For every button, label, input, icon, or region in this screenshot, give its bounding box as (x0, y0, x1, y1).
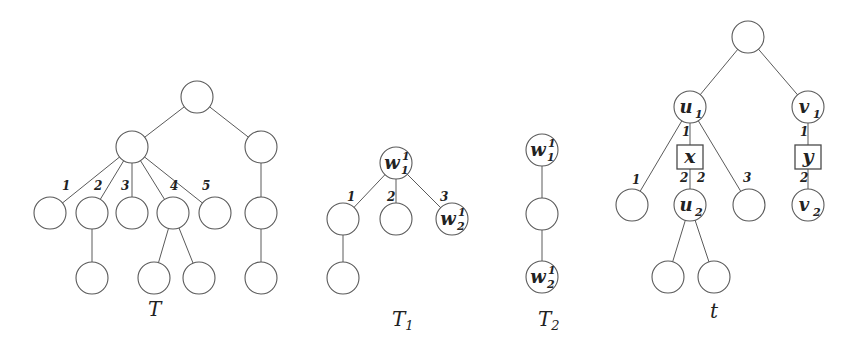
tree-node (183, 262, 215, 294)
edge-label: 2 (799, 171, 808, 185)
box-node-x: x (677, 145, 703, 169)
edge-label: 1 (800, 125, 808, 139)
tree-node (652, 261, 684, 293)
edge-label: 3 (743, 171, 751, 185)
tree-t: u1v1xyu2v21122312t (616, 21, 824, 323)
tree-node-w1: w11 (526, 134, 558, 166)
edge-label: 4 (170, 179, 178, 193)
edge-label: 5 (202, 179, 210, 193)
tree-title-T2: T2 (538, 307, 560, 333)
edge-label: 2 (93, 179, 102, 193)
tree-node (138, 262, 170, 294)
tree-node (380, 203, 412, 235)
node-label-subscript: 2 (546, 278, 555, 291)
tree-node (327, 262, 359, 294)
tree-node (698, 261, 730, 293)
tree-node-v1: v1 (792, 91, 824, 123)
tree-node-u1: u1 (674, 91, 706, 123)
tree-node (526, 198, 558, 230)
tree-node (245, 131, 277, 163)
tree-node-w2: w12 (436, 203, 468, 235)
tree-node (157, 197, 189, 229)
tree-node (116, 197, 148, 229)
node-label-superscript: 1 (548, 137, 556, 150)
tree-node (34, 197, 66, 229)
node-label-subscript: 2 (812, 206, 821, 219)
node-label-superscript: 1 (548, 264, 556, 277)
node-label: w (530, 139, 547, 160)
node-label-subscript: 1 (813, 108, 821, 121)
tree-T1: w11w12123T1 (327, 147, 468, 333)
node-label: x (683, 145, 696, 167)
node-label: v (799, 96, 810, 117)
tree-node-w1: w11 (380, 147, 412, 179)
node-label-superscript: 1 (458, 206, 466, 219)
edge-label: 1 (682, 125, 690, 139)
tree-node (733, 189, 765, 221)
tree-node (245, 197, 277, 229)
edge-label: 1 (62, 179, 70, 193)
edge-label: 3 (121, 179, 129, 193)
node-label: w (440, 208, 457, 229)
tree-node (245, 262, 277, 294)
tree-node (76, 197, 108, 229)
tree-title-T: T (148, 297, 163, 321)
node-label: u (679, 194, 692, 215)
node-label-subscript: 1 (401, 164, 409, 177)
tree-node (181, 81, 213, 113)
tree-node-v2: v2 (792, 189, 824, 221)
edge-label: 2 (679, 171, 688, 185)
node-label-subscript: 1 (547, 151, 555, 164)
node-label: v (799, 194, 810, 215)
tree-title-T1: T1 (392, 307, 414, 333)
edge-label: 1 (347, 190, 355, 204)
node-label-subscript: 2 (694, 206, 703, 219)
tree-T: 12345T (34, 81, 277, 321)
edge-label: 2 (386, 190, 395, 204)
tree-diagram: 12345Tw11w12123T1w11w12T2u1v1xyu2v211223… (0, 0, 858, 345)
node-label-superscript: 1 (402, 150, 410, 163)
tree-T2: w11w12T2 (526, 134, 560, 333)
node-label-subscript: 2 (456, 220, 465, 233)
tree-node (199, 197, 231, 229)
edge-label: 2 (696, 171, 705, 185)
tree-node (616, 189, 648, 221)
tree-node (327, 203, 359, 235)
tree-node-w2: w12 (526, 261, 558, 293)
tree-node (732, 21, 764, 53)
tree-node (76, 262, 108, 294)
tree-title-t: t (710, 299, 719, 323)
node-label: u (679, 96, 692, 117)
node-label: y (801, 145, 815, 167)
tree-node-u2: u2 (674, 189, 706, 221)
node-label: w (530, 266, 547, 287)
edge-label: 1 (632, 173, 640, 187)
node-label: w (384, 152, 401, 173)
tree-node (116, 131, 148, 163)
edge-label: 3 (440, 190, 448, 204)
box-node-y: y (795, 145, 821, 169)
node-label-subscript: 1 (695, 108, 703, 121)
